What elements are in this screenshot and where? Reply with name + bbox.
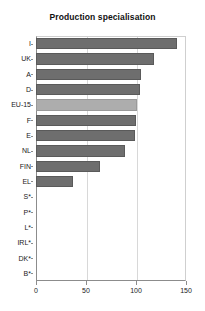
bar-row [36,128,186,143]
y-axis-tick [31,227,33,228]
bar-row [36,266,186,281]
y-axis-label: EL [0,174,33,189]
bar-row [36,67,186,82]
y-axis-tick [31,258,33,259]
y-axis-tick [31,105,33,106]
bar [36,115,136,126]
y-axis-label: EU-15 [0,97,33,112]
y-axis-tick [31,243,33,244]
y-axis-tick [31,136,33,137]
x-axis-tick [186,281,187,285]
x-axis-tick-label: 0 [24,287,48,294]
bar [36,38,177,49]
bar-row [36,82,186,97]
y-axis-label: E [0,128,33,143]
x-axis-tick [86,281,87,285]
y-axis-label: I [0,36,33,51]
bar [36,53,154,64]
bar [36,161,100,172]
bar-row [36,143,186,158]
bars-layer [36,36,186,281]
bar [36,84,140,95]
bar-row [36,113,186,128]
y-axis-tick [31,212,33,213]
y-axis-label: IRL* [0,235,33,250]
bar-row [36,204,186,219]
bar-row [36,235,186,250]
y-axis-label: L* [0,220,33,235]
bar [36,145,125,156]
y-axis-tick [31,74,33,75]
y-axis-tick [31,197,33,198]
x-axis-tick [36,281,37,285]
bar [36,99,137,110]
bar-row [36,159,186,174]
chart-container: Production specialisation IUKADEU-15FENL… [0,0,205,311]
x-axis-tick-label: 100 [124,287,148,294]
bar [36,69,141,80]
x-axis-tick-label: 150 [174,287,198,294]
y-axis-labels: IUKADEU-15FENLFINELS*P*L*IRL*DK*B* [0,36,33,281]
chart-title: Production specialisation [0,12,205,22]
bar [36,176,73,187]
y-axis-label: UK [0,51,33,66]
bar [36,130,135,141]
y-axis-tick [31,90,33,91]
y-axis-label: NL [0,143,33,158]
bar-row [36,220,186,235]
x-axis-tick [136,281,137,285]
y-axis-label: D [0,82,33,97]
y-axis-label: S* [0,189,33,204]
x-axis-tick-label: 50 [74,287,98,294]
bar-row [36,36,186,51]
y-axis-label: A [0,67,33,82]
bar-row [36,250,186,265]
y-axis-tick [31,273,33,274]
y-axis-tick [31,181,33,182]
bar-row [36,174,186,189]
y-axis-tick [31,151,33,152]
bar-row [36,97,186,112]
y-axis-label: FIN [0,159,33,174]
y-axis-tick [31,59,33,60]
y-axis-tick [31,120,33,121]
y-axis-label: B* [0,266,33,281]
bar-row [36,189,186,204]
y-axis-tick [31,44,33,45]
y-axis-tick [31,166,33,167]
y-axis-label: F [0,113,33,128]
bar-row [36,51,186,66]
y-axis-label: DK* [0,250,33,265]
y-axis-label: P* [0,204,33,219]
